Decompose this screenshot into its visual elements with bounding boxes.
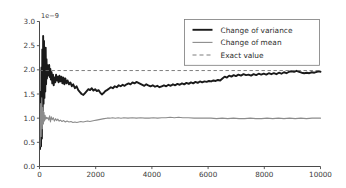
legend-label-exact-value: Exact value — [221, 51, 265, 60]
y-tick-label: 2.0 — [24, 65, 36, 74]
chart-figure: 0.00.51.01.52.02.53.00200040006000800010… — [0, 0, 346, 188]
x-tick-label: 10000 — [309, 170, 332, 179]
legend-label-change-of-variance: Change of variance — [221, 26, 293, 35]
x-tick-label: 8000 — [255, 170, 274, 179]
x-tick-label: 6000 — [199, 170, 218, 179]
y-tick-label: 2.5 — [24, 41, 35, 50]
y-tick-label: 1.0 — [24, 114, 36, 123]
chart-canvas: 0.00.51.01.52.02.53.00200040006000800010… — [0, 0, 346, 188]
axis-offset-label: 1e−9 — [41, 12, 59, 20]
y-tick-label: 1.5 — [24, 90, 35, 99]
legend-label-change-of-mean: Change of mean — [221, 38, 282, 47]
y-tick-label: 0.5 — [24, 138, 35, 147]
y-tick-label: 3.0 — [24, 17, 36, 26]
y-tick-label: 0.0 — [24, 162, 36, 171]
x-tick-label: 2000 — [87, 170, 106, 179]
x-tick-label: 4000 — [143, 170, 162, 179]
x-tick-label: 0 — [37, 170, 42, 179]
chart-legend[interactable]: Change of varianceChange of meanExact va… — [185, 20, 320, 66]
y-axis-offset-text: 1e−9 — [41, 12, 59, 20]
